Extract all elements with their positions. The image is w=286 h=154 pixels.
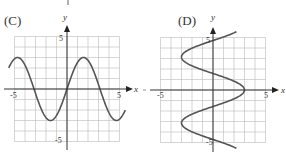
- panel-c: (C) y x -5 5 5 -5: [4, 12, 138, 150]
- figure: (C) y x -5 5 5 -5 (D) y x -5 5 5 -5: [0, 0, 286, 154]
- y-arrow-icon: [210, 27, 216, 34]
- x-arrow-icon: [272, 87, 279, 93]
- y-axis-label-d: y: [210, 12, 215, 22]
- x-axis-label-c: x: [133, 84, 138, 94]
- y-min-label-c: -5: [55, 136, 62, 145]
- x-arrow-icon: [126, 86, 133, 92]
- y-axis-label-c: y: [62, 12, 67, 22]
- panel-label-d: (D): [178, 13, 196, 28]
- axes-d: [150, 27, 279, 152]
- y-max-label-d: 5: [206, 36, 210, 45]
- x-min-label-d: -5: [157, 91, 164, 100]
- x-min-label-c: -5: [10, 91, 17, 100]
- x-max-label-d: 5: [264, 91, 268, 100]
- x-max-label-c: 5: [117, 91, 121, 100]
- y-arrow-icon: [64, 25, 70, 32]
- y-min-label-d: -5: [206, 138, 213, 147]
- y-max-label-c: 5: [59, 34, 63, 43]
- panel-d: (D) y x -5 5 5 -5: [150, 12, 285, 152]
- x-axis-label-d: x: [280, 85, 285, 95]
- panel-label-c: (C): [4, 13, 21, 28]
